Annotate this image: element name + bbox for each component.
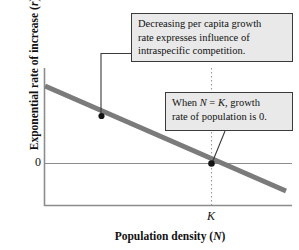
competition-leader-line [101,54,131,116]
cc-callout-growth: , growth [225,97,260,108]
cc-callout-symbol-k: K [218,97,225,108]
y-axis-title: Exponential rate of increase (r) [26,0,42,169]
x-axis-title-main: Population density ( [115,230,213,242]
competition-callout-line-1: Decreasing per capita growth [138,17,287,31]
y-axis-title-symbol: r [28,2,40,6]
carrying-capacity-callout: When N = K, growth rate of population is… [165,92,293,131]
competition-point [98,113,104,119]
competition-callout-line-2: rate expresses influence of [138,31,287,45]
carrying-capacity-leader-line [212,131,225,163]
carrying-capacity-callout-line-1: When N = K, growth [172,96,287,110]
y-axis-title-main: Exponential rate of increase ( [28,6,40,150]
x-axis-title: Population density (N) [44,230,296,242]
figure-container: 0 K Exponential rate of increase (r) Pop… [0,0,299,250]
carrying-capacity-point [208,160,215,167]
competition-callout-line-3: intraspecific competition. [138,44,287,58]
cc-callout-symbol-n: N [200,97,207,108]
cc-callout-when: When [172,97,200,108]
cc-callout-equals: = [207,97,218,108]
x-axis-title-close: ) [221,230,225,242]
carrying-capacity-callout-line-2: rate of population is 0. [172,110,287,124]
y-axis-title-close: ) [28,0,40,2]
competition-callout: Decreasing per capita growth rate expres… [131,13,293,62]
x-tick-label-k: K [196,209,226,224]
